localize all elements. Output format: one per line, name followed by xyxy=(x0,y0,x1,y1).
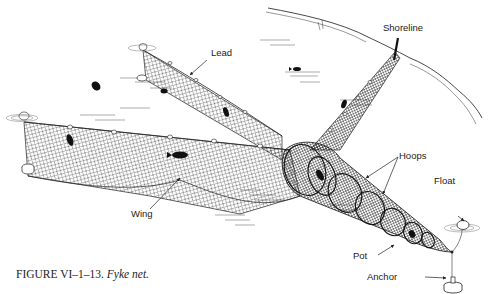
pot-body xyxy=(282,142,452,252)
anchor-icon xyxy=(444,277,462,293)
figure-title: Fyke net. xyxy=(107,268,149,280)
figure-number: FIGURE VI–1–13. xyxy=(16,268,104,280)
label-shoreline: Shoreline xyxy=(383,22,423,33)
figure-caption: FIGURE VI–1–13. Fyke net. xyxy=(16,268,149,280)
shoreline xyxy=(266,8,482,124)
wing-anchor-icon xyxy=(22,164,34,174)
fyke-net-diagram xyxy=(0,0,488,294)
right-wing-net xyxy=(310,52,400,150)
label-lead: Lead xyxy=(211,47,232,58)
lead-anchor-icon xyxy=(137,75,147,81)
label-wing: Wing xyxy=(131,208,153,219)
label-anchor: Anchor xyxy=(367,271,397,282)
label-hoops: Hoops xyxy=(399,150,426,161)
label-float: Float xyxy=(434,175,455,186)
label-pot: Pot xyxy=(353,250,367,261)
